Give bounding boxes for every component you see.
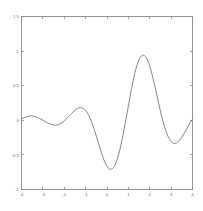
x-axis-tick-labels: -4-3-2-101234 xyxy=(20,192,195,197)
y-axis-tick-labels: -1-0.500.511.5 xyxy=(11,14,19,192)
chart-screenshot: -1-0.500.511.5 -4-3-2-101234 xyxy=(0,0,203,211)
x-tick-label: -2 xyxy=(62,192,66,197)
y-tick-label: 0.5 xyxy=(13,83,20,88)
y-tick-label: 1.5 xyxy=(13,14,20,19)
series-line-wavelet xyxy=(22,55,193,169)
y-tick-label: 1 xyxy=(17,49,20,54)
y-tick-label: -0.5 xyxy=(11,153,19,158)
x-tick-label: 4 xyxy=(191,192,194,197)
data-series-group xyxy=(22,55,193,169)
y-tick-label: 0 xyxy=(17,118,20,123)
x-tick-label: 1 xyxy=(127,192,130,197)
wavelet-line-chart: -1-0.500.511.5 -4-3-2-101234 xyxy=(0,0,203,211)
axes-frame xyxy=(22,17,193,190)
x-tick-label: -1 xyxy=(84,192,88,197)
x-tick-label: 0 xyxy=(106,192,109,197)
x-tick-label: -3 xyxy=(41,192,45,197)
axis-ticks xyxy=(22,17,193,190)
plot-container: -1-0.500.511.5 -4-3-2-101234 xyxy=(0,0,203,211)
x-tick-label: 2 xyxy=(149,192,152,197)
x-tick-label: 3 xyxy=(170,192,173,197)
x-tick-label: -4 xyxy=(20,192,24,197)
